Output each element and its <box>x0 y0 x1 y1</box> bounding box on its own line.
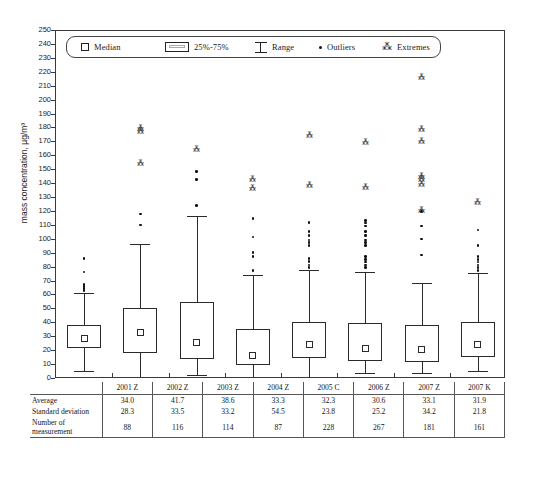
outlier-point <box>420 225 423 228</box>
plot-area: ⁂⁂⁂⁂⁂⁂⁂⁂⁂⁂⁂⁂⁂⁂⁂⁂⁂⁂ <box>55 30 505 378</box>
legend-box-icon <box>165 42 189 52</box>
outlier-point <box>364 230 367 233</box>
table-corner-cell <box>30 382 102 395</box>
table-cell: 23.8 <box>303 406 353 417</box>
legend-median-icon <box>81 43 89 51</box>
whisker-cap-upper <box>243 275 263 276</box>
outlier-point <box>308 264 311 267</box>
y-axis-tick-label: 170 <box>0 136 55 146</box>
outlier-point <box>195 178 198 181</box>
outlier-point <box>477 244 480 247</box>
outlier-point <box>308 260 311 263</box>
legend-label: Extremes <box>397 42 430 52</box>
y-axis-tick-label: 150 <box>0 164 55 174</box>
outlier-point <box>83 257 86 260</box>
outlier-point <box>477 258 480 261</box>
y-axis-tick-label: 100 <box>0 234 55 244</box>
outlier-point <box>420 254 423 257</box>
y-axis-tick-label: 200 <box>0 95 55 105</box>
outlier-point <box>308 241 311 244</box>
whisker-cap-upper <box>187 216 207 217</box>
y-axis-tick-label: 230 <box>0 53 55 63</box>
y-axis-tick-label: 180 <box>0 122 55 132</box>
outlier-point <box>420 238 423 241</box>
median-marker <box>362 345 369 352</box>
y-axis-tick-label: 40 <box>0 317 55 327</box>
whisker-cap-upper <box>74 293 94 294</box>
table-column-header: 2003 Z <box>203 382 253 395</box>
median-marker <box>193 339 200 346</box>
table-cell: 54.5 <box>253 406 303 417</box>
table-cell: 33.3 <box>253 395 303 407</box>
y-axis-tick-label: 70 <box>0 276 55 286</box>
x-axis-separator <box>450 373 451 377</box>
y-axis-tick-label: 190 <box>0 109 55 119</box>
extreme-point: ⁂ <box>306 133 313 136</box>
y-axis-tick-label: 60 <box>0 289 55 299</box>
table-cell: 267 <box>354 417 404 438</box>
outlier-point <box>139 213 142 216</box>
outlier-point <box>364 255 367 258</box>
table-cell: 33.2 <box>203 406 253 417</box>
extreme-point: ⁂ <box>418 127 425 130</box>
outlier-point <box>308 234 311 237</box>
legend-extreme-icon: ⁂ <box>382 44 392 50</box>
x-axis-separator <box>281 373 282 377</box>
legend-item-median: Median <box>81 42 121 52</box>
median-marker <box>137 329 144 336</box>
table-cell: 21.8 <box>454 406 504 417</box>
extreme-point: ⁂ <box>249 177 256 180</box>
y-axis-tick-label: 160 <box>0 150 55 160</box>
legend-range-icon <box>255 42 267 53</box>
median-marker <box>249 352 256 359</box>
extreme-point: ⁂ <box>362 185 369 188</box>
table-cell: 33.5 <box>153 406 203 417</box>
table-cell: 31.9 <box>454 395 504 407</box>
table-row: Standard deviation28.333.533.254.523.825… <box>30 406 505 417</box>
whisker-cap-upper <box>355 272 375 273</box>
outlier-point <box>364 258 367 261</box>
extreme-point: ⁂ <box>418 139 425 142</box>
outlier-point <box>308 221 311 224</box>
whisker-lower <box>309 358 310 377</box>
whisker-upper <box>140 244 141 308</box>
x-axis-separator <box>394 373 395 377</box>
whisker-cap-lower <box>187 375 207 376</box>
outlier-point <box>308 244 311 247</box>
table-cell: 88 <box>102 417 152 438</box>
outlier-point <box>477 255 480 258</box>
whisker-lower <box>197 359 198 375</box>
table-row-label: Average <box>30 395 102 407</box>
extreme-point: ⁂ <box>193 147 200 150</box>
extreme-point: ⁂ <box>474 200 481 203</box>
table-cell: 228 <box>303 417 353 438</box>
legend-item-outliers: Outliers <box>319 42 355 52</box>
extreme-point: ⁂ <box>418 182 425 185</box>
median-marker <box>81 335 88 342</box>
y-axis-tick-label: 240 <box>0 39 55 49</box>
y-axis-tick-label: 250 <box>0 25 55 35</box>
legend-item-range: Range <box>255 42 294 53</box>
outlier-point <box>364 239 367 242</box>
whisker-lower <box>140 353 141 377</box>
outlier-point <box>195 170 198 173</box>
extreme-point: ⁂ <box>418 208 425 211</box>
extreme-point: ⁂ <box>418 75 425 78</box>
y-axis-tick-label: 90 <box>0 248 55 258</box>
x-axis-separator <box>169 373 170 377</box>
extreme-point: ⁂ <box>418 174 425 177</box>
whisker-lower <box>365 361 366 374</box>
table-cell: 25.2 <box>354 406 404 417</box>
y-axis-tick-label: 120 <box>0 206 55 216</box>
table-cell: 161 <box>454 417 504 438</box>
whisker-upper <box>197 216 198 302</box>
extreme-point: ⁂ <box>306 183 313 186</box>
legend-label: Range <box>272 42 294 52</box>
stats-table: 2001 Z2002 Z2003 Z2004 Z2005 C2006 Z2007… <box>30 382 505 438</box>
outlier-point <box>83 271 86 274</box>
whisker-cap-lower <box>74 371 94 372</box>
x-axis-separator <box>112 373 113 377</box>
chart-page: mass concentration, µg/m³ 01020304050607… <box>0 0 559 494</box>
table-header-row: 2001 Z2002 Z2003 Z2004 Z2005 C2006 Z2007… <box>30 382 505 395</box>
outlier-point <box>308 230 311 233</box>
